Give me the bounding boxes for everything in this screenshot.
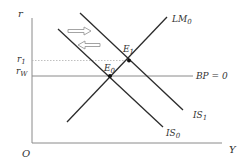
bp-label: BP = 0 (195, 71, 228, 81)
is1-label: IS1 (192, 110, 207, 122)
left-arrow-icon (78, 41, 100, 49)
e1-point (127, 59, 131, 63)
is0-curve (58, 29, 163, 127)
x-axis-label: Y (229, 144, 237, 155)
is0-label: IS0 (165, 128, 181, 140)
is-lm-bp-diagram: r Y O r1 rW BP = 0 LM0 IS0 IS1 E0 E1 (0, 0, 246, 164)
rw-label: rW (16, 66, 28, 78)
r1-label: r1 (17, 54, 26, 66)
y-axis-label: r (18, 8, 24, 19)
right-arrow-icon (68, 27, 91, 35)
is1-curve (80, 13, 183, 110)
origin-label: O (22, 148, 30, 159)
lm0-label: LM0 (171, 14, 192, 26)
